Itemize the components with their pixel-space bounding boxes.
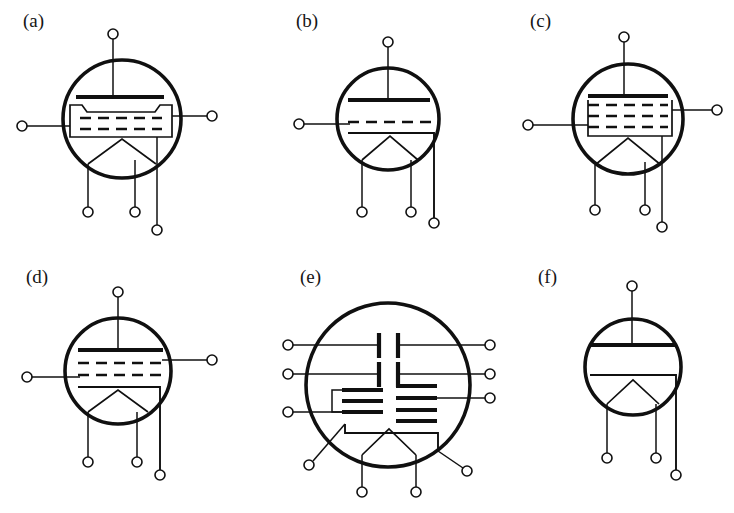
panel-e-diag-lead-right xyxy=(438,451,463,468)
panel-b-pin-bottom-1 xyxy=(357,207,367,217)
panel-b-pin-left xyxy=(294,119,304,129)
panel-e-grid-bus-left xyxy=(332,390,342,412)
panel-f-envelope xyxy=(585,319,681,415)
panel-a-pin-left xyxy=(17,121,27,131)
tube-symbols-figure: (a) xyxy=(0,0,734,513)
panel-d-pin-top xyxy=(113,287,123,297)
panel-c-cathode xyxy=(595,138,661,165)
panel-d-pin-bottom-1 xyxy=(83,457,93,467)
panel-b-pin-bottom-3 xyxy=(429,218,439,228)
figure-root: (a) xyxy=(0,0,734,513)
panel-d-label: (d) xyxy=(26,266,48,288)
panel-d-pin-right xyxy=(207,355,217,365)
panel-e-pin-bottom-left xyxy=(304,460,314,470)
panel-e-pin-left-1 xyxy=(283,340,293,350)
panel-d-pin-bottom-3 xyxy=(155,470,165,480)
panel-c-pin-right xyxy=(712,105,722,115)
panel-f-pin-top xyxy=(627,281,637,291)
panel-e-pin-bottom-right xyxy=(462,466,472,476)
panel-e-pin-right-2 xyxy=(485,369,495,379)
panel-b-pin-top xyxy=(383,37,393,47)
panel-d-pin-bottom-2 xyxy=(132,457,142,467)
panel-c-label: (c) xyxy=(530,10,551,32)
panel-e-pin-bottom-1 xyxy=(357,487,367,497)
panel-b: (b) xyxy=(294,10,439,228)
panel-e-pin-left-2 xyxy=(283,369,293,379)
panel-c-pin-bottom-2 xyxy=(640,205,650,215)
panel-a: (a) xyxy=(17,10,217,235)
panel-f-pin-bottom-1 xyxy=(602,453,612,463)
panel-b-pin-bottom-2 xyxy=(406,207,416,217)
panel-c-pin-bottom-3 xyxy=(657,222,667,232)
panel-e-screen-bar xyxy=(345,424,438,451)
panel-b-screen-lead xyxy=(348,133,434,218)
panel-e-pin-right-3 xyxy=(485,393,495,403)
panel-a-pin-right xyxy=(207,111,217,121)
panel-c-envelope xyxy=(573,64,683,174)
panel-e-label: (e) xyxy=(300,266,321,288)
panel-a-cathode xyxy=(88,139,156,164)
panel-f-pin-bottom-3 xyxy=(671,470,681,480)
panel-a-label: (a) xyxy=(23,10,44,32)
panel-e-pin-bottom-2 xyxy=(411,487,421,497)
panel-c-pin-left xyxy=(523,120,533,130)
panel-e-pin-right-1 xyxy=(485,340,495,350)
panel-a-pin-bottom-2 xyxy=(130,207,140,217)
panel-c: (c) xyxy=(523,10,722,232)
panel-a-pin-top xyxy=(108,29,118,39)
panel-c-pin-bottom-1 xyxy=(590,205,600,215)
panel-f: (f) xyxy=(538,266,681,480)
panel-d: (d) xyxy=(22,266,217,480)
panel-f-cathode xyxy=(607,380,659,404)
panel-e: (e) xyxy=(283,0,495,497)
panel-a-beam-plates xyxy=(70,105,172,137)
panel-f-pin-bottom-2 xyxy=(651,453,661,463)
panel-f-label: (f) xyxy=(538,266,557,288)
panel-b-label: (b) xyxy=(296,10,318,32)
panel-d-cathode xyxy=(88,390,148,412)
panel-b-cathode xyxy=(362,136,418,160)
panel-c-pin-top xyxy=(619,32,629,42)
panel-e-pin-left-3 xyxy=(283,407,293,417)
panel-a-pin-bottom-1 xyxy=(83,207,93,217)
panel-a-pin-bottom-3 xyxy=(152,225,162,235)
panel-d-pin-left xyxy=(22,372,32,382)
panel-e-envelope xyxy=(306,303,470,467)
